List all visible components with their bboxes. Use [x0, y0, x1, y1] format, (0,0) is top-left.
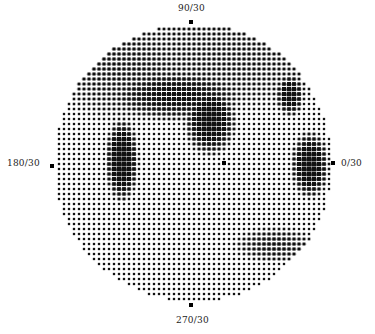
label-0-degrees: 0/30 [341, 158, 362, 168]
dot-grid [58, 28, 330, 301]
visual-field-plot [0, 0, 375, 334]
label-90-degrees: 90/30 [178, 3, 205, 13]
label-180-degrees: 180/30 [7, 158, 40, 168]
label-270-degrees: 270/30 [176, 315, 209, 325]
